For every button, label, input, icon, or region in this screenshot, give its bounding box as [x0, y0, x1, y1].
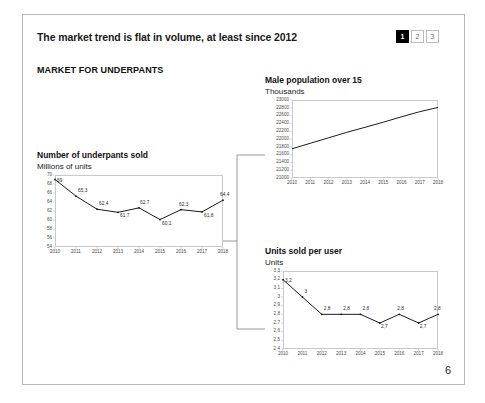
chart-2-plot: 2300022800226002240022200220002180021600…: [265, 100, 445, 190]
page-nav-item-3[interactable]: 3: [426, 30, 439, 43]
underpants-sold-data-label: 62,4: [99, 202, 108, 207]
units-per-user-data-label: 2,7: [420, 325, 427, 330]
underpants-sold-data-label: 64,4: [220, 193, 229, 198]
units-per-user-data-label: 2,7: [381, 325, 388, 330]
page-number: 6: [445, 364, 451, 376]
units-per-user-data-label: 2,8: [434, 307, 441, 312]
page-nav-item-2[interactable]: 2: [411, 30, 424, 43]
slide-subhead: MARKET FOR UNDERPANTS: [37, 65, 163, 75]
chart-1-subtitle: Millions of units: [37, 161, 227, 172]
underpants-sold-data-label: 62,7: [140, 201, 149, 206]
chart-1-title: Number of underpants sold: [37, 150, 227, 161]
chart-male-population: Male population over 15 Thousands 230002…: [265, 75, 445, 190]
underpants-sold-data-label: 69: [57, 179, 62, 184]
underpants-sold-data-label: 62,3: [179, 203, 188, 208]
units-per-user-data-label: 2,8: [363, 307, 370, 312]
units-per-user-data-label: 3,2: [285, 279, 292, 284]
chart-2-subtitle: Thousands: [265, 86, 445, 97]
underpants-sold-data-label: 60,1: [162, 222, 171, 227]
chart-3-plot: 3,33,23,132,92,82,72,62,52,4201020112012…: [265, 271, 445, 361]
units-per-user-series: [265, 271, 450, 363]
chart-3-subtitle: Units: [265, 257, 445, 268]
slide-canvas: The market trend is flat in volume, at l…: [22, 14, 465, 385]
page-nav-item-1[interactable]: 1: [396, 30, 409, 43]
units-per-user-data-label: 3: [304, 290, 307, 295]
chart-units-per-user: Units sold per user Units 3,33,23,132,92…: [265, 246, 445, 361]
slide-headline: The market trend is flat in volume, at l…: [37, 31, 387, 44]
underpants-sold-data-label: 61,7: [120, 214, 129, 219]
chart-2-title: Male population over 15: [265, 75, 445, 86]
page-nav[interactable]: 1 2 3: [396, 30, 439, 43]
units-per-user-data-label: 2,8: [324, 307, 331, 312]
underpants-sold-data-label: 65,3: [78, 189, 87, 194]
units-per-user-data-label: 2,8: [397, 307, 404, 312]
underpants-sold-data-label: 61,8: [204, 214, 213, 219]
units-per-user-data-label: 2,8: [343, 307, 350, 312]
male-population-series: [265, 100, 450, 192]
chart-3-title: Units sold per user: [265, 246, 445, 257]
chart-1-plot: 7068666462605856542010201120122013201420…: [37, 175, 227, 259]
chart-underpants-sold: Number of underpants sold Millions of un…: [37, 150, 227, 259]
